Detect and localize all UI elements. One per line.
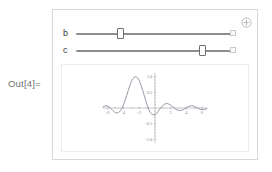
plot-svg: -6-4-22461.00.5-0.5-1.0 — [101, 71, 209, 145]
slider-label-c: c — [63, 46, 76, 55]
slider-label-b: b — [63, 29, 76, 38]
slider-c-action-button[interactable] — [230, 47, 236, 53]
slider-track-b[interactable] — [76, 33, 236, 35]
slider-row-b: b — [63, 27, 249, 40]
x-tick-label: -2 — [137, 110, 142, 115]
x-tick-label: -6 — [106, 110, 111, 115]
slider-row-c: c — [63, 44, 249, 57]
slider-c[interactable] — [76, 44, 236, 57]
y-tick-label: 1.0 — [147, 74, 153, 79]
plot-axes — [103, 73, 207, 143]
y-tick-label: -1.0 — [145, 137, 153, 142]
slider-track-c[interactable] — [76, 50, 236, 52]
y-tick-label: 0.5 — [147, 90, 153, 95]
manipulate-controls-area: b c — [53, 10, 257, 63]
slider-thumb-c[interactable] — [199, 45, 206, 56]
x-tick-label: -4 — [122, 110, 127, 115]
plus-circle-icon[interactable] — [241, 14, 252, 25]
plot-graphic: -6-4-22461.00.5-0.5-1.0 — [101, 71, 209, 145]
x-tick-label: 4 — [185, 110, 188, 115]
slider-b-action-button[interactable] — [230, 30, 236, 36]
manipulate-panel: b c -6-4-22461.00.5-0.5-1.0 — [52, 9, 258, 160]
output-line-label: Out[4]= — [8, 78, 41, 89]
y-tick-label: -0.5 — [145, 121, 153, 126]
plot-output-panel: -6-4-22461.00.5-0.5-1.0 — [61, 64, 249, 152]
x-tick-label: 2 — [170, 110, 173, 115]
slider-thumb-b[interactable] — [117, 28, 124, 39]
x-tick-label: 6 — [201, 110, 204, 115]
slider-b[interactable] — [76, 27, 236, 40]
